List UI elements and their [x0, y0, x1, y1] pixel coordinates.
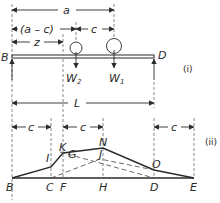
dimension-c-mid: c — [63, 121, 103, 134]
point-K: K — [59, 141, 67, 154]
dashed-line-C-O — [51, 159, 154, 178]
wheel-load-W1: W1 — [107, 39, 125, 87]
point-O: O — [152, 158, 161, 171]
label-D-top: D — [158, 49, 166, 62]
label-B-top: B — [1, 51, 9, 64]
tag-part-i: (i) — [183, 64, 193, 74]
dimension-L: L — [12, 97, 154, 110]
point-F: F — [60, 181, 67, 194]
point-C: C — [46, 181, 54, 194]
point-I: I — [46, 152, 49, 165]
influence-line-diagram: a (a – c) c z B D W2 W1 (i) L — [0, 0, 220, 203]
label-c-top: c — [91, 23, 97, 36]
svg-text:c: c — [28, 121, 34, 134]
dimension-z: z — [12, 36, 63, 49]
label-a: a — [63, 4, 70, 17]
svg-text:c: c — [171, 121, 177, 134]
point-E: E — [190, 181, 197, 194]
label-a-minus-c: (a – c) — [20, 23, 54, 36]
point-B: B — [6, 181, 14, 194]
label-L: L — [74, 97, 80, 110]
dimension-a-minus-c: (a – c) — [12, 23, 76, 36]
label-W2: W2 — [66, 72, 82, 86]
dimension-a: a — [12, 4, 114, 17]
point-D: D — [150, 181, 158, 194]
point-H: H — [99, 181, 107, 194]
point-G: G — [68, 148, 77, 161]
point-J: J — [97, 148, 102, 161]
beam — [12, 55, 154, 58]
dimension-c-left: c — [12, 121, 51, 134]
svg-text:c: c — [80, 121, 86, 134]
wheel-load-W2: W2 — [66, 42, 82, 86]
dimension-c-top: c — [76, 23, 114, 36]
dimension-c-right: c — [154, 121, 194, 134]
label-z: z — [33, 36, 40, 49]
label-W1: W1 — [109, 72, 124, 86]
tag-part-ii: (ii) — [205, 137, 217, 147]
